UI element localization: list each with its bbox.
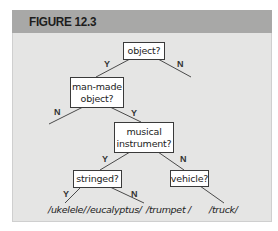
edge-stringed-no	[110, 187, 144, 203]
edge-label-object-yes: Y	[104, 59, 110, 69]
leaf-eucalyptus: /eucalyptus/	[87, 204, 142, 215]
node-stringed-label: stringed?	[76, 173, 118, 185]
edge-object-no	[158, 59, 191, 77]
edge-label-musical-no: N	[180, 154, 187, 164]
leaf-ukelele: /ukelele/	[48, 204, 86, 215]
edge-label-man-made-yes: Y	[131, 108, 137, 118]
edge-label-musical-yes: Y	[102, 154, 108, 164]
leaf-truck: /truck/	[209, 204, 238, 215]
node-vehicle: vehicle?	[170, 170, 209, 187]
node-musical-line1: musical	[126, 126, 161, 138]
edge-label-object-no: N	[177, 59, 184, 69]
leaf-trumpet: /trumpet /	[146, 204, 191, 215]
node-object: object?	[123, 42, 165, 60]
node-musical-line2: instrument?	[117, 138, 172, 150]
node-man-made-line1: man-made	[72, 81, 122, 93]
edge-label-man-made-no: N	[54, 107, 61, 117]
node-man-made-line2: object?	[81, 93, 114, 105]
edge-label-stringed-no: N	[131, 189, 138, 199]
edge-label-stringed-yes: Y	[63, 189, 69, 199]
node-man-made-object: man-made object?	[70, 77, 124, 108]
edge-vehicle-truck	[200, 186, 224, 203]
node-vehicle-label: vehicle?	[171, 173, 208, 185]
node-stringed: stringed?	[73, 170, 122, 188]
tree-edges	[0, 0, 278, 231]
edge-object-yes	[96, 59, 130, 77]
node-musical-instrument: musical instrument?	[114, 122, 174, 153]
node-object-label: object?	[128, 45, 161, 57]
